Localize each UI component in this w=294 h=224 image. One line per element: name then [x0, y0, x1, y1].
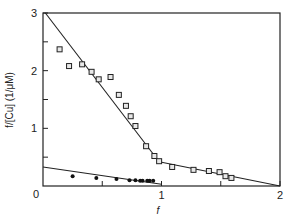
y-axis-title: f/[Cu] (1/μM)	[4, 72, 15, 128]
square-marker	[128, 114, 133, 119]
dot-marker	[114, 177, 118, 181]
y-tick-label: 2	[31, 65, 37, 77]
scatter-chart: 12123 f f/[Cu] (1/μM) 0	[0, 0, 294, 224]
square-marker	[144, 144, 149, 149]
square-marker	[96, 77, 101, 82]
origin-label: 0	[33, 188, 39, 200]
square-marker	[170, 164, 175, 169]
square-marker	[108, 75, 113, 80]
dot-marker	[148, 179, 152, 183]
square-marker	[152, 154, 157, 159]
square-marker	[123, 103, 128, 108]
fit-line	[45, 13, 159, 162]
square-marker	[116, 92, 121, 97]
x-tick-label: 2	[277, 189, 283, 201]
dot-marker	[71, 174, 75, 178]
square-marker	[157, 159, 162, 164]
dot-marker	[133, 178, 137, 182]
square-marker	[223, 174, 228, 179]
data-points	[57, 47, 234, 183]
square-marker	[89, 69, 94, 74]
square-marker	[67, 64, 72, 69]
square-marker	[57, 47, 62, 52]
axis-ticks: 12123	[31, 7, 283, 201]
y-tick-label: 1	[31, 122, 37, 134]
dot-marker	[151, 179, 155, 183]
square-marker	[133, 124, 138, 129]
x-tick-label: 1	[158, 189, 164, 201]
square-marker	[80, 62, 85, 67]
square-marker	[191, 167, 196, 172]
dot-marker	[128, 178, 132, 182]
square-marker	[217, 170, 222, 175]
x-axis-title: f	[157, 205, 161, 216]
square-marker	[206, 169, 211, 174]
dot-marker	[141, 179, 145, 183]
y-tick-label: 3	[31, 7, 37, 19]
square-marker	[229, 175, 234, 180]
dot-marker	[94, 176, 98, 180]
